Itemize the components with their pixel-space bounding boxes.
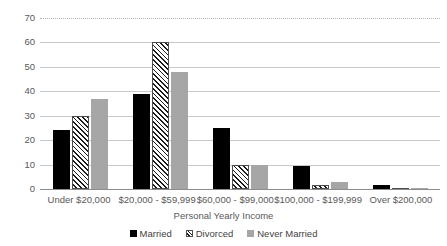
bar-married[interactable] <box>133 94 150 189</box>
legend-label: Divorced <box>196 229 234 239</box>
chart-screenshot: 010203040506070 Under $20,000$20,000 - $… <box>0 0 447 246</box>
bar-never[interactable] <box>331 182 348 189</box>
bar-divorced[interactable] <box>232 165 249 189</box>
bar-married[interactable] <box>53 130 70 189</box>
x-axis-tick-label: Over $200,000 <box>362 192 440 208</box>
y-axis-tick-label: 10 <box>5 160 35 170</box>
axis-baseline <box>40 189 440 190</box>
y-axis-tick-label: 70 <box>5 13 35 23</box>
y-axis-tick-label: 20 <box>5 135 35 145</box>
chart-legend: MarriedDivorcedNever Married <box>0 229 447 239</box>
bar-group <box>280 18 360 189</box>
plot-area <box>40 18 440 189</box>
bar-never[interactable] <box>411 188 428 189</box>
legend-label: Married <box>140 229 172 239</box>
legend-item-married[interactable]: Married <box>130 229 172 239</box>
bar-divorced[interactable] <box>72 116 89 189</box>
legend-swatch-icon <box>130 230 137 237</box>
legend-label: Never Married <box>257 229 317 239</box>
bar-never[interactable] <box>91 99 108 189</box>
legend-swatch-icon <box>247 230 254 237</box>
x-axis-tick-label: $100,000 - $199,999 <box>274 192 362 208</box>
y-axis: 010203040506070 <box>0 18 35 189</box>
legend-item-never[interactable]: Never Married <box>247 229 317 239</box>
bar-groups <box>40 18 440 189</box>
legend-swatch-icon <box>186 230 193 237</box>
bar-divorced[interactable] <box>312 185 329 189</box>
y-axis-tick-label: 50 <box>5 62 35 72</box>
legend-item-divorced[interactable]: Divorced <box>186 229 234 239</box>
y-axis-tick-label: 30 <box>5 111 35 121</box>
y-axis-tick-label: 40 <box>5 87 35 97</box>
x-axis-tick-label: Under $20,000 <box>40 192 118 208</box>
bar-never[interactable] <box>251 165 268 189</box>
bar-group <box>360 18 440 189</box>
y-axis-tick-label: 0 <box>5 184 35 194</box>
bar-married[interactable] <box>293 166 310 189</box>
bar-married[interactable] <box>373 185 390 189</box>
bar-divorced[interactable] <box>392 188 409 189</box>
bar-divorced[interactable] <box>152 42 169 189</box>
x-axis-tick-label: $20,000 - $59,999 <box>118 192 196 208</box>
bar-group <box>200 18 280 189</box>
bar-group <box>120 18 200 189</box>
x-axis-tick-labels: Under $20,000$20,000 - $59,999$60,000 - … <box>40 192 440 208</box>
y-axis-tick-label: 60 <box>5 38 35 48</box>
bar-group <box>40 18 120 189</box>
x-axis-title: Personal Yearly Income <box>0 210 447 221</box>
bar-married[interactable] <box>213 128 230 189</box>
bar-never[interactable] <box>171 72 188 189</box>
x-axis-tick-label: $60,000 - $99,000 <box>196 192 274 208</box>
